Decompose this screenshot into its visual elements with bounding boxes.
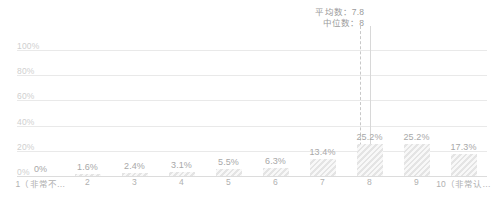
gridline-100: [17, 50, 487, 51]
bar[interactable]: [310, 159, 336, 176]
gridline-40: [17, 126, 487, 127]
plot-area: 100%80%60%40%20%0% 0%1.6%2.4%3.1%5.5%6.3…: [17, 50, 487, 176]
mean-annotation-label: 平均数：7.8: [288, 7, 364, 18]
bar-value-label: 1.6%: [64, 162, 112, 172]
median-annotation-label: 中位数：8: [288, 18, 364, 29]
bar-chart: 平均数：7.8 中位数：8 100%80%60%40%20%0% 0%1.6%2…: [0, 0, 497, 202]
bar[interactable]: [75, 174, 101, 176]
bar-value-label: 3.1%: [158, 160, 206, 170]
statistics-annotation: 平均数：7.8 中位数：8: [288, 7, 364, 29]
y-axis-tick-label: 100%: [17, 41, 51, 51]
bar[interactable]: [451, 154, 477, 176]
x-axis-tick-label: 1（非常不…: [5, 177, 77, 189]
x-axis-tick-label: 10（非常认…: [428, 177, 497, 189]
y-axis-tick-label: 80%: [17, 66, 51, 76]
x-axis-tick-label: 8: [350, 177, 390, 187]
gridline-80: [17, 75, 487, 76]
gridline-60: [17, 100, 487, 101]
x-axis-tick-label: 6: [256, 177, 296, 187]
bar-value-label: 13.4%: [299, 147, 347, 157]
bar-value-label: 0%: [17, 164, 65, 174]
bar-value-label: 25.2%: [346, 132, 394, 142]
bar[interactable]: [263, 168, 289, 176]
bar[interactable]: [216, 169, 242, 176]
x-axis-tick-label: 2: [68, 177, 108, 187]
x-axis-tick-label: 5: [209, 177, 249, 187]
y-axis-tick-label: 40%: [17, 117, 51, 127]
bar-value-label: 5.5%: [205, 157, 253, 167]
bar-value-label: 17.3%: [440, 142, 488, 152]
bar[interactable]: [169, 172, 195, 176]
x-axis: 1（非常不…2345678910（非常认…: [17, 177, 487, 199]
bar[interactable]: [404, 144, 430, 176]
bar[interactable]: [357, 144, 383, 176]
bar-value-label: 6.3%: [252, 156, 300, 166]
bar-value-label: 2.4%: [111, 161, 159, 171]
y-axis-tick-label: 20%: [17, 142, 51, 152]
bar-value-label: 25.2%: [393, 132, 441, 142]
x-axis-tick-label: 4: [162, 177, 202, 187]
y-axis-tick-label: 60%: [17, 91, 51, 101]
bar[interactable]: [122, 173, 148, 176]
x-axis-tick-label: 7: [303, 177, 343, 187]
x-axis-tick-label: 3: [115, 177, 155, 187]
